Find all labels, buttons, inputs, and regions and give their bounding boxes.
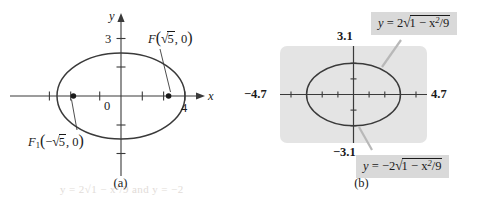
- equation-top-radicand-right: /9: [440, 16, 450, 30]
- xmax-label: 4.7: [431, 87, 447, 102]
- focus-left-close-paren: ): [78, 132, 83, 149]
- focus-right-rest: , 0: [175, 32, 188, 46]
- equation-bottom-equals: =: [372, 159, 379, 173]
- focus-left-name: F: [28, 135, 36, 149]
- focus-right-name: F: [148, 32, 156, 46]
- equation-top-equals: =: [387, 16, 394, 30]
- equation-bottom-callout: y = −2√1 − x2/9: [356, 155, 449, 178]
- caption-panel-a: (a): [0, 176, 241, 191]
- x-axis-label: x: [208, 89, 214, 104]
- focus-left-rest: , 0: [66, 135, 79, 149]
- equation-bottom-lhs: y: [363, 159, 369, 173]
- origin-label: 0: [104, 99, 110, 114]
- ymin-label: −3.1: [333, 145, 356, 160]
- focus-right-label: F(√5, 0): [148, 30, 192, 46]
- x-tick-label-4: 4: [181, 101, 187, 116]
- two-panel-ellipse-figure: y x 3 4 0 F(√5, 0) F1(−√5, 0): [0, 0, 482, 207]
- equation-top-radicand: 1 − x2/9: [410, 15, 451, 30]
- focus-right-close-paren: ): [187, 29, 192, 46]
- focus-right-leader-line: [160, 49, 171, 92]
- equation-bottom-radicand-left: 1 − x: [402, 159, 428, 173]
- focus-point-right: [166, 93, 172, 99]
- caption-panel-b: (b): [241, 176, 482, 191]
- equation-bottom-radicand: 1 − x2/9: [402, 158, 443, 173]
- ymax-label: 3.1: [337, 29, 353, 44]
- equation-top-radicand-left: 1 − x: [410, 16, 436, 30]
- x-axis-arrowhead: [196, 92, 205, 99]
- focus-left-label: F1(−√5, 0): [28, 133, 84, 150]
- xmin-label: −4.7: [244, 87, 267, 102]
- y-axis-arrowhead: [117, 13, 124, 22]
- equation-bottom-radicand-right: /9: [432, 159, 442, 173]
- equation-top-callout: y = 2√1 − x2/9: [371, 12, 457, 35]
- equation-bottom-coefficient: −2: [382, 159, 395, 173]
- y-axis-label: y: [109, 9, 115, 24]
- y-tick-label-3: 3: [105, 32, 111, 47]
- equation-top-lhs: y: [378, 16, 384, 30]
- focus-right-radicand: 5: [167, 31, 174, 46]
- focus-left-radicand: 5: [59, 134, 66, 149]
- focus-point-left: [71, 93, 77, 99]
